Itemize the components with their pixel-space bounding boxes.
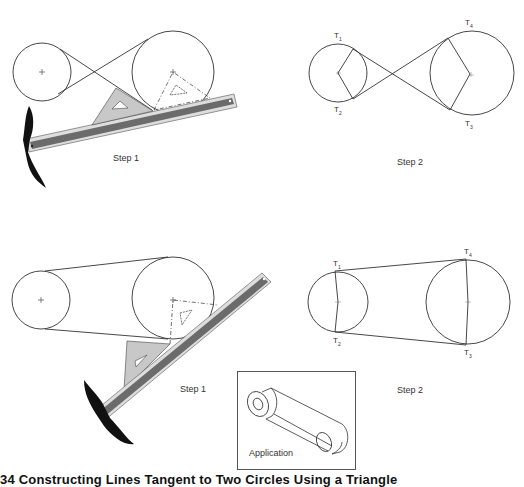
top-step1-label: Step 1	[113, 153, 139, 163]
application-label: Application	[249, 448, 293, 458]
bottom-t4-label: T4	[464, 247, 472, 258]
top-t3-label: T3	[465, 119, 473, 130]
bottom-t2-label: T2	[333, 336, 341, 347]
bottom-step2-label: Step 2	[397, 385, 423, 395]
top-t1-label: T1	[334, 31, 342, 42]
top-t4-label: T4	[465, 18, 473, 29]
figure-caption: 34 Constructing Lines Tangent to Two Cir…	[0, 472, 397, 487]
top-step2-label: Step 2	[397, 157, 423, 167]
bottom-t3-label: T3	[464, 348, 472, 359]
top-t2-label: T2	[334, 105, 342, 116]
bottom-step1-label: Step 1	[180, 384, 206, 394]
bottom-t1-label: T1	[333, 259, 341, 270]
